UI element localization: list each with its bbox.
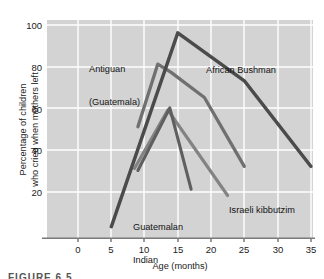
y-axis-title: Percentage of children who cried when mo… xyxy=(18,20,41,240)
series-label-african-bushman: African Bushman xyxy=(206,43,276,98)
series-label-antiguan-line2: (Guatemala) xyxy=(89,97,140,108)
series-label-antiguan-guatemala: Antiguan (Guatemala) xyxy=(89,42,140,130)
x-tick-label-25: 25 xyxy=(232,244,256,255)
x-tick-label-0: 0 xyxy=(66,244,90,255)
y-axis-title-line2: who cried when mothers left xyxy=(29,20,41,240)
y-tick-label-100: 100 xyxy=(18,20,42,31)
series-label-guatemalan-line1: Guatemalan xyxy=(133,222,183,233)
y-tick-label-60: 60 xyxy=(18,104,42,115)
figure-caption: FIGURE 6.5 xyxy=(8,272,72,279)
x-axis-title: Age (months) xyxy=(47,261,313,271)
y-tick-label-40: 40 xyxy=(18,145,42,156)
x-tick-label-30: 30 xyxy=(266,244,290,255)
series-label-african-bushman-line1: African Bushman xyxy=(206,65,276,76)
series-label-antiguan-line1: Antiguan xyxy=(89,64,140,75)
x-tick-label-5: 5 xyxy=(99,244,123,255)
x-tick-label-15: 15 xyxy=(166,244,190,255)
x-tick-label-35: 35 xyxy=(299,244,323,255)
x-axis xyxy=(40,236,320,244)
series-label-israeli-kibbutzim: Israeli kibbutzim xyxy=(229,183,295,238)
series-label-israeli-kibbutzim-line1: Israeli kibbutzim xyxy=(229,205,295,216)
y-tick-label-80: 80 xyxy=(18,62,42,73)
y-tick-label-20: 20 xyxy=(18,187,42,198)
x-tick-label-10: 10 xyxy=(132,244,156,255)
plot-area: Antiguan (Guatemala) African Bushman Isr… xyxy=(47,20,313,238)
figure-container: Percentage of children who cried when mo… xyxy=(0,0,324,279)
x-tick-label-20: 20 xyxy=(199,244,223,255)
y-axis-title-line1: Percentage of children xyxy=(18,20,30,240)
